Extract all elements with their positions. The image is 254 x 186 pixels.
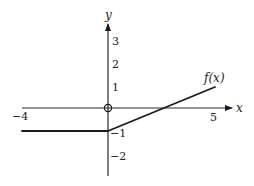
x-tick-neg4: −4 bbox=[12, 110, 28, 123]
y-tick-neg2: −2 bbox=[110, 150, 126, 163]
y-tick-2: 2 bbox=[112, 58, 119, 71]
function-graph: y x 3 2 1 −1 −2 −4 5 f(x) bbox=[0, 0, 254, 186]
y-tick-neg1: −1 bbox=[110, 127, 126, 140]
y-tick-3: 3 bbox=[112, 35, 119, 48]
y-tick-1: 1 bbox=[112, 81, 119, 94]
fx-linear-segment bbox=[108, 87, 215, 131]
function-label: f(x) bbox=[203, 71, 225, 85]
x-axis-label: x bbox=[236, 101, 243, 115]
y-axis-label: y bbox=[104, 8, 112, 22]
x-tick-5: 5 bbox=[210, 111, 217, 124]
